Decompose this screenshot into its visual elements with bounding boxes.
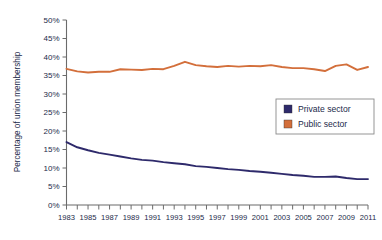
y-tick-label: 5% (48, 182, 60, 191)
x-tick-label: 2007 (316, 213, 333, 222)
y-tick-label: 0% (48, 201, 60, 210)
x-tick-label: 1995 (187, 213, 204, 222)
y-axis-title: Percentage of union membership (13, 51, 22, 172)
legend-swatch-0 (284, 105, 292, 113)
union-membership-chart: Percentage of union membership 0%5%10%15… (0, 0, 382, 240)
y-axis-title-text: Percentage of union membership (13, 51, 22, 172)
x-tick-label: 2011 (360, 213, 376, 222)
x-tick-label: 2001 (252, 213, 269, 222)
y-tick-label: 25% (43, 108, 59, 117)
x-tick-label: 2009 (338, 213, 355, 222)
y-tick-label: 50% (43, 16, 59, 25)
x-tick-label: 1983 (58, 213, 75, 222)
y-tick-label: 30% (43, 90, 59, 99)
x-tick-label: 2005 (295, 213, 312, 222)
x-tick-label: 1985 (80, 213, 97, 222)
x-tick-label: 1997 (209, 213, 226, 222)
legend-swatch-1 (284, 120, 292, 128)
y-tick-label: 15% (43, 145, 59, 154)
legend-label-0: Private sector (298, 104, 351, 114)
x-tick-label: 1993 (166, 213, 183, 222)
x-tick-label: 1987 (101, 213, 118, 222)
y-tick-label: 20% (43, 127, 59, 136)
chart-svg: Percentage of union membership 0%5%10%15… (0, 0, 382, 240)
y-tick-label: 45% (43, 34, 59, 43)
x-tick-label: 1991 (144, 213, 161, 222)
x-tick-label: 2003 (273, 213, 290, 222)
y-tick-label: 40% (43, 53, 59, 62)
legend-label-1: Public sector (298, 119, 347, 129)
x-tick-label: 1989 (123, 213, 140, 222)
chart-legend: Private sectorPublic sector (276, 99, 374, 134)
y-tick-label: 10% (43, 164, 59, 173)
y-tick-label: 35% (43, 71, 59, 80)
x-tick-label: 1999 (230, 213, 247, 222)
